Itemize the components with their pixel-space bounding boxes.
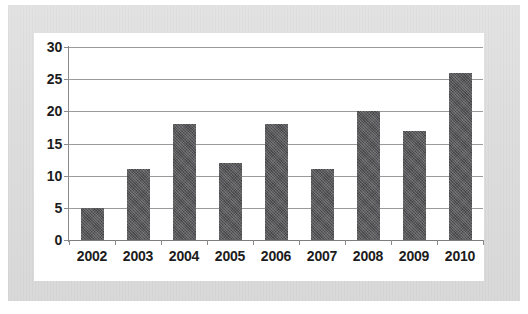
- gridline: [69, 79, 483, 80]
- x-axis-tick-label: 2006: [253, 249, 299, 263]
- y-axis-tick-label: 5: [36, 201, 62, 215]
- x-axis-tick-label: 2004: [161, 249, 207, 263]
- bar: [127, 169, 150, 240]
- y-axis-tick-labels: 051015202530: [34, 33, 62, 281]
- x-axis-tick-label: 2005: [207, 249, 253, 263]
- x-axis-tick-label: 2007: [299, 249, 345, 263]
- x-axis-tick-marks: [69, 240, 483, 246]
- y-axis-tick-mark: [64, 208, 69, 209]
- x-axis-tick-mark: [69, 240, 70, 245]
- bar: [265, 124, 288, 240]
- y-axis-tick-mark: [64, 144, 69, 145]
- x-axis-tick-mark: [115, 240, 116, 245]
- x-axis-tick-label: 2008: [345, 249, 391, 263]
- x-axis-tick-label: 2002: [69, 249, 115, 263]
- x-axis-tick-mark: [391, 240, 392, 245]
- x-axis-tick-mark: [483, 240, 484, 245]
- y-axis-tick-mark: [64, 176, 69, 177]
- x-axis-tick-mark: [345, 240, 346, 245]
- bar: [357, 111, 380, 240]
- bar: [173, 124, 196, 240]
- y-axis-tick-mark: [64, 111, 69, 112]
- x-axis-tick-mark: [253, 240, 254, 245]
- y-axis-tick-label: 20: [36, 104, 62, 118]
- y-axis-tick-label: 0: [36, 233, 62, 247]
- y-axis-tick-label: 15: [36, 137, 62, 151]
- y-axis-tick-mark: [64, 79, 69, 80]
- bar: [403, 131, 426, 240]
- plot-area: [69, 47, 483, 240]
- x-axis-tick-mark: [161, 240, 162, 245]
- bar: [81, 208, 104, 240]
- y-axis-tick-label: 10: [36, 169, 62, 183]
- scanned-page: 051015202530 200220032004200520062007200…: [0, 0, 528, 314]
- bar-chart: 051015202530 200220032004200520062007200…: [34, 33, 484, 281]
- x-axis-tick-label: 2010: [437, 249, 483, 263]
- bar: [219, 163, 242, 240]
- x-axis-tick-mark: [299, 240, 300, 245]
- y-axis-tick-mark: [64, 240, 69, 241]
- x-axis-tick-mark: [207, 240, 208, 245]
- gridline: [69, 111, 483, 112]
- x-axis-tick-labels: 200220032004200520062007200820092010: [69, 249, 483, 273]
- x-axis-tick-mark: [437, 240, 438, 245]
- bar: [449, 73, 472, 240]
- x-axis-tick-label: 2009: [391, 249, 437, 263]
- y-axis-tick-label: 30: [36, 40, 62, 54]
- y-axis-tick-mark: [64, 47, 69, 48]
- x-axis-tick-label: 2003: [115, 249, 161, 263]
- bar: [311, 169, 334, 240]
- gridline: [69, 47, 483, 48]
- y-axis-tick-label: 25: [36, 72, 62, 86]
